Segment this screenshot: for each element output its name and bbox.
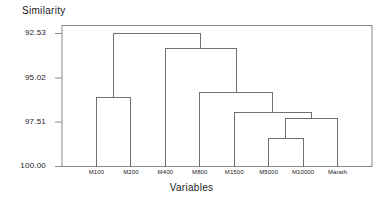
dendrogram-figure: Similarity 92.53 95.02 97.51 100.00 M100… bbox=[0, 0, 383, 201]
dendrogram-link-n2 bbox=[286, 118, 338, 166]
dendrogram-link-n3 bbox=[234, 113, 312, 167]
dendrogram-link-n4 bbox=[200, 93, 273, 167]
x-tick-label-marath: Marath bbox=[328, 169, 347, 175]
plot-frame bbox=[62, 26, 372, 167]
x-tick-label-m100: M100 bbox=[89, 169, 104, 175]
x-tick-label-m400: M400 bbox=[158, 169, 173, 175]
x-tick-label-m10000: M10000 bbox=[292, 169, 314, 175]
x-tick-label-m5000: M5000 bbox=[259, 169, 278, 175]
dendrogram-link-n1 bbox=[269, 138, 303, 166]
dendrogram-link-n5 bbox=[96, 97, 130, 166]
y-tick-marks bbox=[55, 34, 62, 167]
x-axis-title: Variables bbox=[0, 182, 383, 193]
x-tick-label-m1500: M1500 bbox=[225, 169, 244, 175]
dendrogram-links bbox=[96, 34, 337, 167]
x-tick-label-m800: M800 bbox=[192, 169, 207, 175]
x-tick-label-m200: M200 bbox=[123, 169, 138, 175]
dendrogram-link-n7 bbox=[114, 34, 201, 98]
dendrogram-link-n6 bbox=[165, 48, 236, 166]
